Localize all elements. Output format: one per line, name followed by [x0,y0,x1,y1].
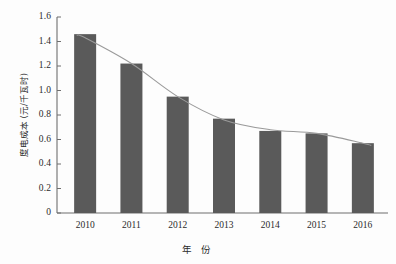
y-axis-tick-label: 0 [3,207,51,217]
x-axis-tick-label: 2013 [199,220,249,230]
x-axis-tick-label: 2014 [245,220,295,230]
y-axis-tick-label: 1.6 [3,11,51,21]
bar [74,34,96,213]
bar [167,97,189,213]
bar [259,131,281,213]
x-axis-title: 年 份 [0,242,396,256]
x-axis-tick-label: 2011 [106,220,156,230]
x-axis-tick-label: 2016 [338,220,388,230]
bar [352,143,374,213]
x-axis-tick-label: 2010 [60,220,110,230]
chart-figure: 00.20.40.60.81.01.21.41.6 20102011201220… [0,0,396,264]
bar [213,119,235,213]
y-axis-title: 度电成本 (元/千瓦时) [17,45,29,185]
y-axis-tick-label: 1.4 [3,36,51,46]
chart-bars [74,34,374,213]
bar [120,64,142,213]
x-axis-tick-label: 2012 [153,220,203,230]
bar [306,133,328,213]
x-axis-tick-label: 2015 [292,220,342,230]
